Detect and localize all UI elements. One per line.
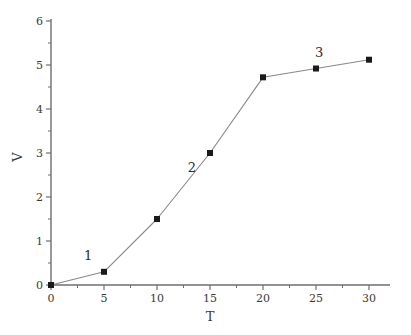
data-series (48, 57, 372, 288)
data-point-marker (260, 74, 266, 80)
x-axis-ticks (51, 285, 369, 290)
x-tick-label: 20 (256, 293, 270, 304)
data-point-marker (313, 66, 319, 72)
x-tick-label: 25 (309, 293, 323, 304)
series-markers (48, 57, 372, 288)
y-tick-label: 4 (36, 104, 43, 115)
y-tick-label: 2 (36, 192, 43, 203)
x-tick-label: 15 (203, 293, 217, 304)
x-tick-label: 10 (150, 293, 164, 304)
data-point-marker (154, 216, 160, 222)
x-tick-label: 0 (48, 293, 55, 304)
line-chart: 051015202530 0123456 123 T V (0, 0, 411, 335)
x-tick-label: 30 (362, 293, 376, 304)
data-point-marker (101, 269, 107, 275)
point-annotation: 2 (188, 160, 196, 173)
point-annotation: 3 (315, 45, 323, 58)
x-tick-label: 5 (101, 293, 108, 304)
plot-area (0, 0, 411, 335)
series-line-v (51, 60, 369, 285)
point-annotation: 1 (84, 249, 92, 262)
axis-lines (51, 19, 390, 285)
data-point-marker (366, 57, 372, 63)
data-point-marker (48, 282, 54, 288)
x-axis-title: T (206, 310, 215, 323)
y-tick-label: 0 (36, 280, 43, 291)
y-axis-title: V (11, 152, 24, 161)
y-tick-label: 1 (36, 236, 43, 247)
y-tick-label: 3 (36, 148, 43, 159)
y-tick-label: 6 (36, 16, 43, 27)
y-axis-ticks (46, 21, 51, 285)
data-point-marker (207, 150, 213, 156)
y-tick-label: 5 (36, 60, 43, 71)
